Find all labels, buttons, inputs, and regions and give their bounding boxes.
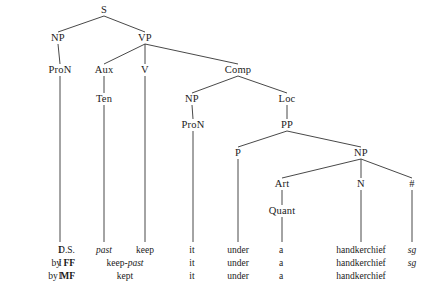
derivation-cell-ff-6: sg [408,259,416,269]
tree-edge-NP1-ProN1 [58,44,60,64]
tree-node-pp: PP [281,120,293,131]
derivation-cell-ff-2: it [189,259,194,269]
tree-node-quant: Quant [269,206,296,217]
tree-node-p: P [235,148,241,159]
tree-node-ten: Ten [96,94,112,105]
tree-node-art: Art [275,179,290,190]
tree-node-np3: NP [354,148,368,159]
tree-edge-Comp-Loc [238,76,287,93]
tree-node-num: # [409,179,414,190]
derivation-cell-mf-2: it [189,272,194,282]
tree-edge-S-NP1 [58,16,104,32]
derivation-cell-ds-3: it [189,246,194,256]
derivation-cell-ds-4: under [227,246,249,256]
tree-node-n: N [357,179,365,190]
tree-edge-NP2-ProN2 [192,105,193,119]
derivation-cell-ff-5: handkerchief [336,259,386,269]
derivation-cell-ff-3: under [227,259,249,269]
tree-node-vp: VP [138,33,152,44]
tree-edge-VP-Comp [145,44,238,64]
tree-edge-PP-P [238,131,287,147]
tree-edge-NP3-Num [361,159,412,178]
derivation-cell-ff-0: I [58,259,61,269]
tree-node-aux: Aux [95,65,114,76]
tree-node-v: V [141,65,149,76]
tree-node-s: S [101,5,107,16]
derivation-cell-mf-0: I [58,272,61,282]
tree-edge-S-VP [104,16,145,32]
tree-edge-NP3-Art [282,159,361,178]
derivation-cell-ds-1: past [96,246,112,256]
derivation-cell-mf-5: handkerchief [336,272,386,282]
tree-node-np2: NP [185,94,199,105]
derivation-cell-mf-3: under [227,272,249,282]
derivation-cell-ds-0: I [58,246,61,256]
derivation-cell-mf-4: a [279,272,283,282]
derivation-row-label-ff: by FF [52,259,75,269]
tree-edge-PP-NP3 [287,131,361,147]
tree-edge-VP-Aux [104,44,145,64]
tree-node-pron1: ProN [49,65,72,76]
tree-node-loc: Loc [279,94,296,105]
derivation-cell-ds-5: a [279,246,283,256]
derivation-cell-ff-4: a [279,259,283,269]
derivation-cell-ff-1: keep-past [107,259,144,269]
tree-node-np1: NP [51,33,65,44]
tree-node-comp: Comp [225,65,251,76]
syntax-tree-figure: SNPVPProNAuxVCompTenNPLocProNPPPNPArtN#Q… [0,0,432,284]
derivation-cell-ds-2: keep [136,246,154,256]
derivation-row-label-mf: by MF [48,272,75,282]
tree-edge-Comp-NP2 [192,76,238,93]
tree-node-pron2: ProN [182,120,205,131]
derivation-cell-mf-1: kept [117,272,133,282]
derivation-cell-ds-6: handkerchief [336,246,386,256]
derivation-cell-ds-7: sg [408,246,416,256]
